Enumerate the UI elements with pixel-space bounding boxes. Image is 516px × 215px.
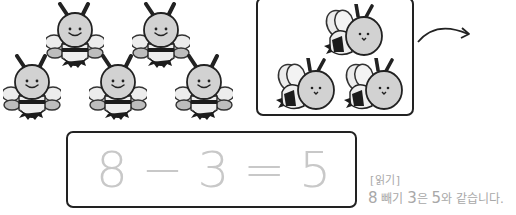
equation-equals-sign: =	[243, 145, 285, 195]
equation-result: 5	[299, 145, 331, 195]
reading-num-3: 3	[407, 189, 417, 207]
reading-text: 빼기	[378, 192, 408, 206]
reading-text: 은	[417, 192, 432, 206]
equation-subtrahend: 3	[198, 145, 230, 195]
flying-bee-icon	[322, 4, 384, 60]
bee-icon	[3, 54, 61, 120]
curved-arrow-icon	[416, 20, 478, 50]
flying-bee-icon	[342, 58, 404, 114]
reading-text: 와 같습니다.	[441, 192, 504, 206]
reading-sentence: 8 빼기 3은 5와 같습니다.	[368, 189, 504, 207]
reading-num-5: 5	[432, 189, 442, 207]
bee-icon	[175, 54, 233, 120]
reading-label: [읽기]	[370, 171, 401, 187]
equation-minuend: 8	[96, 145, 128, 195]
bee-icon	[89, 54, 147, 120]
flying-bee-icon	[274, 58, 336, 114]
equation-minus-sign: −	[142, 145, 184, 195]
equation-box: 8 − 3 = 5	[66, 131, 357, 208]
reading-num-8: 8	[368, 189, 378, 207]
